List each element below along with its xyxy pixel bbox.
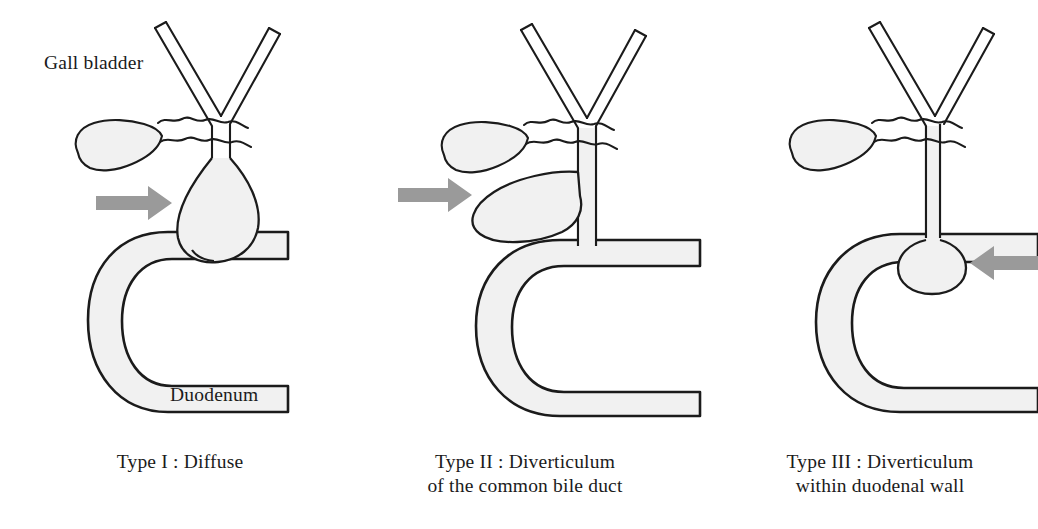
panel-caption-type-3: Type III : Diverticulum within duodenal … xyxy=(730,450,1030,498)
panel-caption-type-1: Type I : Diffuse xyxy=(40,450,320,474)
panel-type-1 xyxy=(88,22,288,412)
arrow-type-2 xyxy=(398,178,472,212)
duodenum-label: Duodenum xyxy=(170,384,258,406)
panel-type-3 xyxy=(816,22,1038,412)
duodenum-type-2 xyxy=(476,240,700,416)
panel-type-2 xyxy=(398,24,700,416)
bile-duct-type-1 xyxy=(155,22,280,262)
panel-caption-type-2: Type II : Diverticulum of the common bil… xyxy=(370,450,680,498)
gall-bladder-label: Gall bladder xyxy=(44,52,143,74)
choledochal-cyst-figure: Gall bladder Duodenum Type I : Diffuse T… xyxy=(0,0,1038,529)
arrow-type-1 xyxy=(96,186,172,220)
